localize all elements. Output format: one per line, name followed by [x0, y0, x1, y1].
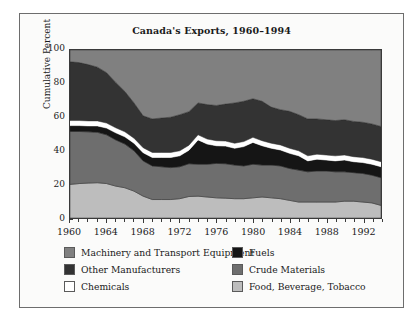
x-tick-label: 1988 [315, 226, 339, 237]
legend-label: Chemicals [81, 281, 129, 292]
chart-legend: Machinery and Transport EquipmentFuelsOt… [64, 244, 394, 295]
x-tick-label: 1968 [131, 226, 155, 237]
legend-swatch-icon [232, 281, 243, 292]
legend-item[interactable]: Machinery and Transport Equipment [64, 247, 232, 258]
legend-swatch-icon [232, 264, 243, 275]
legend-item[interactable]: Other Manufacturers [64, 264, 232, 275]
stacked-area-plot [70, 50, 381, 218]
y-axis-tick-labels: 100806040200 [35, 49, 65, 219]
legend-swatch-icon [64, 247, 75, 258]
x-axis-tick-labels: 196019641968197219761980198419881992 [69, 221, 382, 237]
x-tick-label: 1976 [204, 226, 228, 237]
legend-swatch-icon [64, 281, 75, 292]
legend-label: Other Manufacturers [81, 264, 180, 275]
x-tick-label: 1984 [278, 226, 302, 237]
legend-item[interactable]: Crude Materials [232, 264, 394, 275]
y-tick-label: 20 [39, 180, 65, 189]
legend-label: Crude Materials [249, 264, 325, 275]
x-tick-label: 1972 [167, 226, 191, 237]
figure-frame: Canada's Exports, 1960–1994 Cumulative P… [19, 13, 404, 308]
legend-label: Food, Beverage, Tobacco [249, 281, 366, 292]
legend-swatch-icon [232, 247, 243, 258]
y-tick-label: 60 [39, 112, 65, 121]
legend-label: Machinery and Transport Equipment [81, 247, 254, 258]
chart-title: Canada's Exports, 1960–1994 [20, 25, 403, 36]
y-tick-label: 100 [39, 44, 65, 53]
legend-swatch-icon [64, 264, 75, 275]
legend-item[interactable]: Food, Beverage, Tobacco [232, 281, 394, 292]
y-tick-label: 0 [39, 214, 65, 223]
x-tick-label: 1992 [351, 226, 375, 237]
plot-area [69, 49, 382, 219]
x-tick-label: 1980 [241, 226, 265, 237]
legend-label: Fuels [249, 247, 274, 258]
y-tick-label: 40 [39, 146, 65, 155]
legend-item[interactable]: Fuels [232, 247, 394, 258]
y-tick-label: 80 [39, 78, 65, 87]
x-tick-mark [382, 219, 383, 222]
legend-item[interactable]: Chemicals [64, 281, 232, 292]
x-tick-label: 1960 [57, 226, 81, 237]
x-tick-label: 1964 [94, 226, 118, 237]
